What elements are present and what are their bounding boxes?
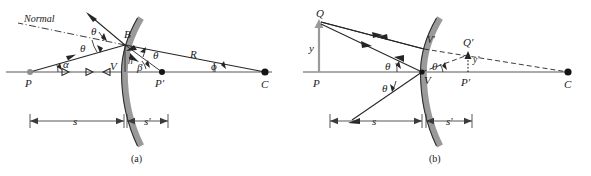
label-theta-upper-b: θ (385, 60, 391, 72)
label-point-P-prime-b: P′ (460, 76, 471, 88)
dim-s-arrow-left-b (330, 118, 338, 124)
image-arrowhead-b (465, 51, 472, 59)
dim-sprime-arrow-right-b (464, 118, 472, 124)
point-C-marker-b (564, 68, 571, 75)
label-point-P-b: P (312, 77, 320, 89)
label-point-V-prime-b: V′ (427, 35, 436, 45)
label-dim-s-b: s (372, 115, 376, 127)
label-theta-right-b: θ (432, 60, 438, 72)
optics-figure: Normal θ θ B α h V θ β R ϕ P P′ C s s′ (… (0, 0, 591, 176)
label-y-b: y (308, 42, 314, 54)
dim-s-arrow-right-b (414, 118, 422, 124)
panel-b-svg: Q y P θ θ V V′ θ Q′ y′ P′ C s s′ (b) (0, 0, 591, 176)
caption-panel-b: (b) (429, 153, 441, 165)
label-point-V-b: V (424, 74, 432, 86)
label-point-Q-prime-b: Q′ (463, 36, 474, 48)
ray-Q-to-V (321, 24, 422, 72)
label-point-C-b: C (564, 78, 572, 90)
object-arrowhead-b (315, 19, 324, 28)
label-point-Q-b: Q (316, 7, 324, 19)
label-theta-lower-b: θ (382, 82, 388, 94)
ray-Vprime-reflected (321, 22, 424, 49)
ray-V-reflected-down (352, 72, 422, 120)
label-dim-sprime-b: s′ (446, 115, 453, 127)
label-y-prime-b: y′ (472, 55, 480, 65)
